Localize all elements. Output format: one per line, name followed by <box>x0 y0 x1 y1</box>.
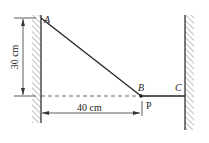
label-point-a: A <box>44 15 50 25</box>
dimension-label-vertical: 30 cm <box>10 40 20 74</box>
dimension-label-horizontal: 40 cm <box>77 103 102 113</box>
diagram-canvas <box>0 0 209 143</box>
left-wall <box>32 15 41 123</box>
right-wall <box>185 15 194 130</box>
label-point-p: P <box>146 101 152 111</box>
label-point-b: B <box>138 83 144 93</box>
rope-ab <box>41 18 141 96</box>
label-point-c: C <box>175 83 182 93</box>
